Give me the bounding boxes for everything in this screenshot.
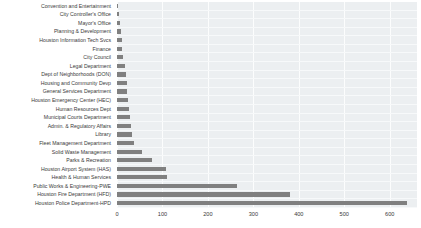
bar-row bbox=[117, 122, 417, 131]
x-tick-label: 200 bbox=[203, 211, 212, 217]
bar-row bbox=[117, 79, 417, 88]
x-tick-label: 400 bbox=[294, 211, 303, 217]
category-label: Housing and Community Devp bbox=[0, 79, 114, 88]
bar bbox=[117, 167, 166, 171]
category-label: City Controller's Office bbox=[0, 11, 114, 20]
category-label: Houston Police Department-HPD bbox=[0, 199, 114, 208]
category-label: City Council bbox=[0, 53, 114, 62]
x-tick-label: 600 bbox=[385, 211, 394, 217]
bar-row bbox=[117, 19, 417, 28]
bar-row bbox=[117, 53, 417, 62]
category-label: Admin. & Regulatory Affairs bbox=[0, 122, 114, 131]
bar-rows bbox=[117, 2, 417, 208]
bar bbox=[117, 47, 122, 51]
bar-row bbox=[117, 114, 417, 123]
category-label: Parks & Recreation bbox=[0, 156, 114, 165]
bar-row bbox=[117, 2, 417, 11]
category-label: Legal Department bbox=[0, 62, 114, 71]
bar-row bbox=[117, 139, 417, 148]
category-label: Finance bbox=[0, 45, 114, 54]
bar-row bbox=[117, 156, 417, 165]
bar-row bbox=[117, 28, 417, 37]
bar-row bbox=[117, 45, 417, 54]
bar bbox=[117, 21, 120, 25]
bar-row bbox=[117, 11, 417, 20]
x-tick-label: 300 bbox=[249, 211, 258, 217]
bar bbox=[117, 81, 127, 85]
category-label: Planning & Development bbox=[0, 28, 114, 37]
bar bbox=[117, 4, 118, 8]
category-label: Human Resources Dept bbox=[0, 105, 114, 114]
bar bbox=[117, 115, 130, 119]
bar bbox=[117, 89, 127, 93]
plot-area bbox=[117, 2, 417, 208]
category-label: General Services Department bbox=[0, 88, 114, 97]
bar-row bbox=[117, 174, 417, 183]
bar bbox=[117, 201, 407, 205]
bar-row bbox=[117, 36, 417, 45]
category-axis-labels: Convention and EntertainmentCity Control… bbox=[0, 2, 114, 208]
category-label: Fleet Management Department bbox=[0, 139, 114, 148]
bar bbox=[117, 184, 237, 188]
category-label: Houston Airport System (HAS) bbox=[0, 165, 114, 174]
x-tick-label: 100 bbox=[158, 211, 167, 217]
category-label: Houston Information Tech Svcs bbox=[0, 36, 114, 45]
bar-row bbox=[117, 191, 417, 200]
bar bbox=[117, 150, 142, 154]
bar bbox=[117, 98, 128, 102]
bar-row bbox=[117, 62, 417, 71]
bar bbox=[117, 29, 121, 33]
bar bbox=[117, 124, 131, 128]
category-label: Houston Emergency Center (HEC) bbox=[0, 96, 114, 105]
category-label: Houston Fire Department (HFD) bbox=[0, 191, 114, 200]
category-label: Mayor's Office bbox=[0, 19, 114, 28]
category-label: Health & Human Services bbox=[0, 174, 114, 183]
bar bbox=[117, 141, 134, 145]
bar-row bbox=[117, 165, 417, 174]
bar bbox=[117, 64, 125, 68]
bar-row bbox=[117, 148, 417, 157]
category-label: Library bbox=[0, 131, 114, 140]
bar bbox=[117, 192, 290, 196]
bar-row bbox=[117, 105, 417, 114]
category-label: Convention and Entertainment bbox=[0, 2, 114, 11]
x-axis: 0100200300400500600 bbox=[117, 208, 417, 226]
category-label: Solid Waste Management bbox=[0, 148, 114, 157]
bar-row bbox=[117, 182, 417, 191]
bar bbox=[117, 175, 167, 179]
x-tick-label: 500 bbox=[340, 211, 349, 217]
bar-row bbox=[117, 71, 417, 80]
category-label: Municipal Courts Department bbox=[0, 114, 114, 123]
bar bbox=[117, 132, 132, 136]
bar bbox=[117, 12, 119, 16]
bar-row bbox=[117, 96, 417, 105]
bar-row bbox=[117, 88, 417, 97]
bar-chart: Convention and EntertainmentCity Control… bbox=[0, 0, 421, 228]
bar bbox=[117, 107, 129, 111]
bar bbox=[117, 38, 122, 42]
category-label: Dept of Neighborhoods (DON) bbox=[0, 71, 114, 80]
x-tick-label: 0 bbox=[115, 211, 118, 217]
category-label: Public Works & Engineering-PWE bbox=[0, 182, 114, 191]
bar-row bbox=[117, 131, 417, 140]
bar bbox=[117, 72, 126, 76]
bar bbox=[117, 55, 123, 59]
bar-row bbox=[117, 199, 417, 208]
bar bbox=[117, 158, 152, 162]
